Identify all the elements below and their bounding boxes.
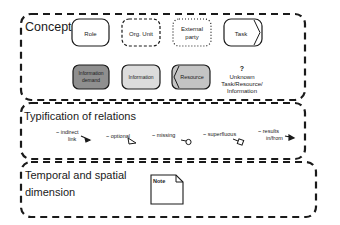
external-party-label-2: party bbox=[185, 34, 198, 40]
task-label: Task bbox=[235, 31, 248, 37]
superfluous-label: ~ superfluous bbox=[203, 131, 236, 137]
unknown-question-icon: ? bbox=[240, 65, 244, 72]
role-label: Role bbox=[84, 31, 97, 37]
optional-arrow-icon bbox=[128, 138, 136, 144]
external-party-label-1: External bbox=[181, 26, 203, 32]
missing-circle-icon bbox=[186, 139, 191, 144]
information-demand-label-2: demand bbox=[82, 77, 100, 83]
relations-title: Typification of relations bbox=[24, 110, 136, 122]
missing-label: ~ missing bbox=[152, 132, 175, 138]
unknown-label-1: Unknown bbox=[229, 74, 254, 80]
indirect-link-label-1: ~ indirect bbox=[56, 129, 79, 135]
results-arrow-icon bbox=[285, 135, 294, 140]
superfluous-square-icon bbox=[237, 139, 243, 145]
unknown-label-3: Information bbox=[227, 88, 257, 94]
temporal-title-1: Temporal and spatial bbox=[25, 169, 127, 181]
indirect-arrow-icon bbox=[81, 136, 90, 142]
resource-label: Resource bbox=[180, 74, 204, 80]
note-label: Note bbox=[153, 178, 165, 184]
results-label-1: ~ results bbox=[258, 128, 279, 134]
missing-line bbox=[181, 140, 186, 141]
concepts-title: Concepts bbox=[25, 20, 78, 34]
temporal-title-2: dimension bbox=[25, 186, 75, 198]
superfluous-line bbox=[233, 139, 238, 141]
information-demand-label-1: Information bbox=[78, 70, 103, 76]
legend-diagram: Concepts Role Org. Unit External party T… bbox=[0, 0, 340, 225]
optional-label: ~ optional bbox=[106, 133, 130, 139]
information-label: Information bbox=[128, 74, 153, 80]
unknown-label-2: Task/Resource/ bbox=[221, 81, 263, 87]
org-unit-label: Org. Unit bbox=[129, 31, 153, 37]
indirect-link-label-2: link bbox=[68, 136, 77, 142]
results-label-2: in/from bbox=[266, 135, 283, 141]
external-party-shape bbox=[173, 19, 211, 46]
